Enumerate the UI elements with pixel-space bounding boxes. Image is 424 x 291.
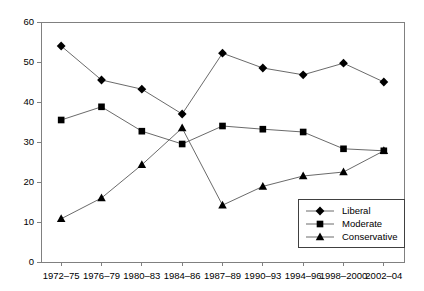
data-point-moderate-0 [58,117,65,124]
chart-container: 0102030405060 1972–751976–791980–831984–… [0,0,424,291]
y-tick-label: 40 [23,96,34,107]
series-lines [61,46,384,219]
data-point-liberal-3 [178,110,187,119]
data-point-liberal-4 [218,49,227,58]
y-tick-label: 30 [23,136,34,147]
y-tick-label: 0 [29,256,34,267]
x-tick-label: 1976–79 [83,270,120,281]
data-point-moderate-4 [219,123,226,130]
x-tick-label: 1994–96 [285,270,322,281]
x-axis-ticks [61,262,384,266]
data-point-moderate-6 [300,129,307,136]
legend-label: Moderate [342,218,382,229]
x-tick-label: 1984–86 [164,270,201,281]
line-chart: 0102030405060 1972–751976–791980–831984–… [0,0,424,291]
data-point-liberal-8 [379,78,388,87]
data-point-liberal-6 [299,70,308,79]
y-axis-tick-labels: 0102030405060 [23,16,34,267]
data-point-conservative-7 [339,168,348,176]
x-tick-label: 1987–89 [204,270,241,281]
y-tick-label: 10 [23,216,34,227]
y-tick-label: 20 [23,176,34,187]
legend-marker-square-icon [317,221,324,228]
data-point-conservative-3 [178,124,187,132]
data-point-liberal-7 [339,59,348,68]
y-tick-label: 50 [23,56,34,67]
x-tick-label: 1998–2000 [320,270,368,281]
series-markers [57,42,388,222]
data-point-moderate-5 [260,126,267,133]
legend-label: Conservative [342,231,397,242]
x-tick-label: 1980–83 [123,270,160,281]
y-axis-ticks [37,22,41,262]
data-point-conservative-1 [97,194,106,202]
legend-label: Liberal [342,205,371,216]
x-tick-label: 1972–75 [43,270,80,281]
data-point-liberal-2 [137,85,146,94]
data-point-moderate-2 [139,128,146,135]
y-tick-label: 60 [23,16,34,27]
data-point-moderate-7 [340,145,347,152]
data-point-liberal-5 [258,64,267,73]
data-point-moderate-1 [98,103,105,110]
data-point-moderate-3 [179,141,186,148]
data-point-conservative-4 [218,201,227,209]
x-tick-label: 1990–93 [244,270,281,281]
data-point-conservative-0 [57,214,66,222]
x-tick-label: 2002–04 [365,270,402,281]
chart-legend[interactable]: LiberalModerateConservative [298,199,404,247]
x-axis-tick-labels: 1972–751976–791980–831984–861987–891990–… [43,270,403,281]
